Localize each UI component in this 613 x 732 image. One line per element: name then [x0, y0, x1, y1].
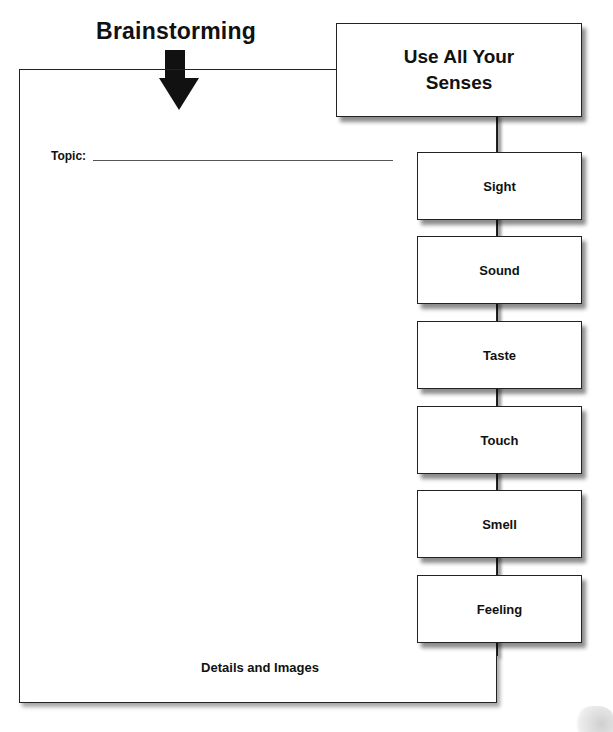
sense-label: Sight [483, 179, 516, 194]
sense-label: Smell [482, 517, 517, 532]
sense-box-smell[interactable]: Smell [417, 490, 582, 558]
senses-header-box: Use All Your Senses [336, 23, 582, 117]
worksheet-title: Brainstorming [86, 18, 266, 45]
sense-box-taste[interactable]: Taste [417, 321, 582, 389]
sense-box-sight[interactable]: Sight [417, 152, 582, 220]
senses-header-line2: Senses [404, 70, 515, 96]
senses-header-line1: Use All Your [404, 44, 515, 70]
topic-input-line[interactable] [93, 160, 393, 161]
page-corner-smudge [575, 706, 613, 732]
sense-label: Taste [483, 348, 516, 363]
sense-box-feeling[interactable]: Feeling [417, 575, 582, 643]
sense-label: Touch [480, 433, 518, 448]
details-and-images-label: Details and Images [160, 660, 360, 675]
topic-label: Topic: [51, 149, 86, 163]
sense-box-sound[interactable]: Sound [417, 236, 582, 304]
sense-box-touch[interactable]: Touch [417, 406, 582, 474]
sense-label: Sound [479, 263, 519, 278]
sense-label: Feeling [477, 602, 523, 617]
